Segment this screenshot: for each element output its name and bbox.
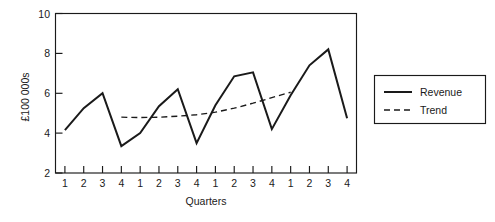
legend-label-revenue: Revenue [420, 86, 462, 98]
x-tick-label: 2 [81, 177, 87, 189]
x-tick-label: 4 [118, 177, 124, 189]
plot-frame [56, 14, 357, 174]
x-tick-label: 1 [288, 177, 294, 189]
x-axis-tick-labels: 1234123412341234 [62, 177, 350, 189]
line-chart: 10 8 6 4 2 £100 000s 1234123412341234 Qu… [0, 0, 495, 222]
series-revenue-line [65, 49, 347, 146]
x-tick-label: 2 [307, 177, 313, 189]
legend-box [375, 76, 486, 124]
y-tick-label: 4 [44, 127, 50, 139]
x-tick-label: 1 [212, 177, 218, 189]
x-tick-label: 3 [325, 177, 331, 189]
chart-legend: Revenue Trend [375, 76, 486, 124]
x-tick-label: 4 [269, 177, 275, 189]
legend-label-trend: Trend [420, 104, 447, 116]
x-tick-label: 3 [100, 177, 106, 189]
y-tick-label: 6 [44, 87, 50, 99]
y-tick-label: 2 [44, 167, 50, 179]
x-tick-label: 2 [231, 177, 237, 189]
x-tick-label: 3 [250, 177, 256, 189]
x-tick-label: 3 [175, 177, 181, 189]
x-axis-ticks [65, 166, 347, 173]
y-axis-ticks [56, 14, 63, 174]
x-tick-label: 1 [137, 177, 143, 189]
x-tick-label: 2 [156, 177, 162, 189]
x-tick-label: 4 [344, 177, 350, 189]
x-tick-label: 4 [194, 177, 200, 189]
x-tick-label: 1 [62, 177, 68, 189]
y-tick-label: 10 [38, 8, 50, 20]
chart-figure: 10 8 6 4 2 £100 000s 1234123412341234 Qu… [0, 0, 495, 222]
x-axis-title: Quarters [186, 195, 227, 207]
y-axis-tick-labels: 10 8 6 4 2 [38, 8, 50, 180]
y-tick-label: 8 [44, 47, 50, 59]
series-trend-line [121, 92, 290, 117]
y-axis-title: £100 000s [19, 72, 31, 121]
